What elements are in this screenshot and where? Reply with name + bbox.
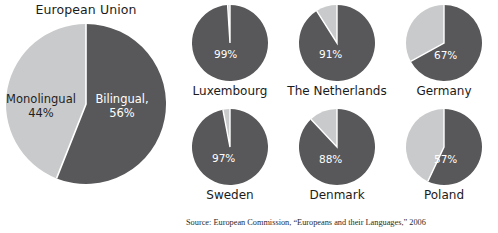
country-pie-svg [191, 4, 269, 82]
european-union-pie [4, 22, 168, 186]
country-pie-cell: 91%The Netherlands [283, 2, 391, 106]
country-pie-svg [191, 108, 269, 186]
country-name-label: Denmark [283, 188, 391, 202]
country-pie-svg [405, 108, 483, 186]
country-pie-cell: 99%Luxembourg [176, 2, 284, 106]
country-pie-svg [405, 4, 483, 82]
country-pie [405, 108, 483, 186]
european-union-pie-svg [4, 22, 168, 186]
language-skills-pie-figure: European Union Monolingual 44% Bilingual… [0, 0, 498, 233]
country-name-label: Sweden [176, 188, 284, 202]
country-pie-cell: 88%Denmark [283, 106, 391, 210]
country-name-label: Luxembourg [176, 84, 284, 98]
country-pie [298, 108, 376, 186]
country-pie [191, 4, 269, 82]
country-pie-svg [298, 4, 376, 82]
european-union-chart: European Union Monolingual 44% Bilingual… [0, 2, 172, 198]
page-title: European Union [0, 2, 172, 17]
country-pie-cell: 57%Poland [390, 106, 498, 210]
country-pie [405, 4, 483, 82]
source-caption: Source: European Commission, “Europeans … [186, 218, 426, 227]
country-name-label: The Netherlands [283, 84, 391, 98]
country-pie-grid: 99%Luxembourg91%The Netherlands67%German… [176, 2, 498, 210]
country-name-label: Poland [390, 188, 498, 202]
country-pie [191, 108, 269, 186]
country-name-label: Germany [390, 84, 498, 98]
country-pie-cell: 67%Germany [390, 2, 498, 106]
country-pie-cell: 97%Sweden [176, 106, 284, 210]
country-pie-svg [298, 108, 376, 186]
country-pie [298, 4, 376, 82]
